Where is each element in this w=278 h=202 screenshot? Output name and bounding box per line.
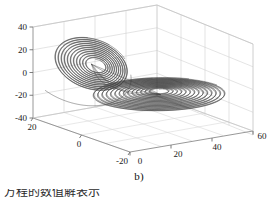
grid-back-left xyxy=(33,5,157,118)
attractor-trajectory xyxy=(45,37,225,110)
figure-caption-b: b) xyxy=(0,170,278,182)
z-tick-label: -20 xyxy=(15,90,27,100)
y-tick-label: -20 xyxy=(116,156,128,166)
x-axis-tick-labels: 0 20 40 60 xyxy=(138,131,267,166)
x-tick-label: 0 xyxy=(138,156,143,166)
page-text-fragment-line: 方程的数值解表示 xyxy=(4,189,204,199)
y-tick-label: 20 xyxy=(28,122,38,132)
y-axis-tick-labels: 20 0 -20 xyxy=(28,122,129,166)
z-tick-label: 40 xyxy=(18,22,28,32)
z-axis-ticks xyxy=(30,27,34,118)
page-text-fragment: 方程的数值解表示 xyxy=(4,189,204,202)
figure-panel: 40 20 0 -20 -40 20 0 -20 0 20 40 xyxy=(0,0,278,202)
x-axis-line xyxy=(130,131,253,152)
x-tick-label: 40 xyxy=(213,142,223,152)
z-tick-label: 0 xyxy=(23,68,28,78)
z-axis-tick-labels: 40 20 0 -20 -40 xyxy=(15,22,28,123)
z-tick-label: -40 xyxy=(15,113,27,123)
y-axis-ticks xyxy=(31,118,130,155)
x-tick-label: 20 xyxy=(174,149,184,159)
z-tick-label: 20 xyxy=(18,45,28,55)
x-axis-ticks xyxy=(130,131,253,156)
y-tick-label: 0 xyxy=(77,139,82,149)
x-tick-label: 60 xyxy=(258,131,268,141)
